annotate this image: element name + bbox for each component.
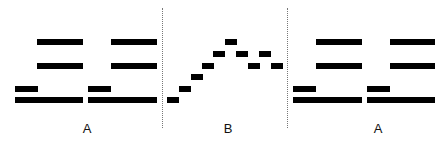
bar-block-right <box>293 97 362 103</box>
bar-block-left <box>88 97 157 103</box>
bar-pattern-diagram: A B A <box>0 0 448 142</box>
bar-block-left <box>37 63 83 69</box>
bar-block-middle <box>191 74 203 80</box>
bar-block-left <box>111 63 157 69</box>
section-label-middle: B <box>224 122 233 135</box>
bar-block-left <box>111 39 157 45</box>
bar-block-left <box>15 86 38 92</box>
bar-block-middle <box>271 63 283 69</box>
bar-block-right <box>367 86 390 92</box>
bar-block-middle <box>259 51 271 57</box>
bar-block-middle <box>202 63 214 69</box>
dashed-divider-line <box>287 8 288 128</box>
bar-block-middle <box>248 63 260 69</box>
bar-block-middle <box>236 51 248 57</box>
bar-block-middle <box>225 39 237 45</box>
bar-block-middle <box>179 86 191 92</box>
bar-block-middle <box>213 51 225 57</box>
bar-block-right <box>390 63 435 69</box>
bar-block-right <box>316 39 362 45</box>
bar-block-right <box>367 97 435 103</box>
dashed-divider-line <box>162 8 163 128</box>
bar-block-middle <box>167 97 179 103</box>
section-label-right: A <box>374 122 383 135</box>
bar-block-right <box>316 63 362 69</box>
bar-block-left <box>15 97 83 103</box>
bar-block-right <box>390 39 435 45</box>
section-label-left: A <box>83 122 92 135</box>
bar-block-left <box>37 39 83 45</box>
bar-block-left <box>88 86 111 92</box>
bar-block-right <box>293 86 316 92</box>
